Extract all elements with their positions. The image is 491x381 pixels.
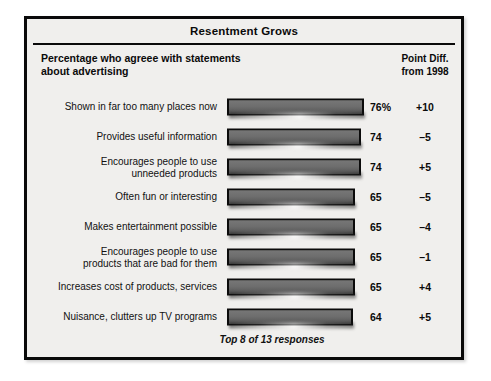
point-diff-line-1: Point Diff.	[389, 52, 461, 65]
row-label: Makes entertainment possible	[35, 221, 217, 233]
point-diff-value: –5	[389, 131, 461, 143]
subtitle-line-2: about advertising	[41, 65, 331, 78]
bar-track	[227, 309, 353, 326]
table-row: Encourages people to useunneeded product…	[27, 152, 461, 182]
point-diff-value: +4	[389, 281, 461, 293]
table-row: Shown in far too many places now76%+10	[27, 92, 461, 122]
bar-value-label: 64	[370, 311, 382, 323]
bar-value-label: 65	[370, 191, 382, 203]
bar	[227, 309, 353, 326]
point-diff-value: –5	[389, 191, 461, 203]
bar-track	[227, 159, 361, 176]
row-label-line-1: Provides useful information	[35, 131, 217, 143]
point-diff-column-header: Point Diff. from 1998	[389, 52, 461, 78]
footnote: Top 8 of 13 responses	[157, 334, 387, 345]
row-label-line-2: products that are bad for them	[35, 257, 217, 269]
subtitle-label: Percentage who agreee with statements ab…	[41, 52, 331, 78]
bar-value-label: 65	[370, 281, 382, 293]
bar	[227, 189, 355, 206]
point-diff-value: +5	[389, 161, 461, 173]
page-title: Resentment Grows	[190, 25, 298, 37]
bar	[227, 159, 361, 176]
bar-value-label: 74	[370, 131, 382, 143]
table-row: Increases cost of products, services65+4	[27, 272, 461, 302]
row-label: Encourages people to useproducts that ar…	[35, 246, 217, 269]
row-label-line-1: Increases cost of products, services	[35, 281, 217, 293]
row-label-line-1: Makes entertainment possible	[35, 221, 217, 233]
table-row: Encourages people to useproducts that ar…	[27, 242, 461, 272]
chart-title-bar: Resentment Grows	[27, 19, 461, 43]
row-label: Often fun or interesting	[35, 191, 217, 203]
row-label-line-1: Nuisance, clutters up TV programs	[35, 311, 217, 323]
bar-value-label: 65	[370, 221, 382, 233]
table-row: Often fun or interesting65–5	[27, 182, 461, 212]
bar-track	[227, 129, 361, 146]
row-label: Increases cost of products, services	[35, 281, 217, 293]
row-label: Nuisance, clutters up TV programs	[35, 311, 217, 323]
row-label-line-1: Shown in far too many places now	[35, 101, 217, 113]
column-headers: Percentage who agreee with statements ab…	[27, 52, 461, 90]
bar	[227, 279, 355, 296]
table-row: Makes entertainment possible65–4	[27, 212, 461, 242]
bar	[227, 99, 364, 116]
row-label-line-1: Encourages people to use	[35, 246, 217, 258]
bar-value-label: 65	[370, 251, 382, 263]
title-divider	[33, 43, 455, 45]
bar-track	[227, 279, 355, 296]
row-label: Encourages people to useunneeded product…	[35, 156, 217, 179]
point-diff-line-2: from 1998	[389, 65, 461, 78]
point-diff-value: +10	[389, 101, 461, 113]
bar	[227, 219, 355, 236]
row-label: Provides useful information	[35, 131, 217, 143]
table-row: Provides useful information74–5	[27, 122, 461, 152]
bar-value-label: 76%	[370, 101, 391, 113]
row-label: Shown in far too many places now	[35, 101, 217, 113]
point-diff-value: –1	[389, 251, 461, 263]
point-diff-value: +5	[389, 311, 461, 323]
point-diff-value: –4	[389, 221, 461, 233]
bar-track	[227, 99, 364, 116]
bar	[227, 129, 361, 146]
bar-rows: Shown in far too many places now76%+10Pr…	[27, 92, 461, 332]
bar-track	[227, 249, 355, 266]
subtitle-line-1: Percentage who agreee with statements	[41, 52, 331, 65]
table-row: Nuisance, clutters up TV programs64+5	[27, 302, 461, 332]
bar-track	[227, 219, 355, 236]
bar-value-label: 74	[370, 161, 382, 173]
chart-panel: Resentment Grows Percentage who agreee w…	[24, 16, 464, 360]
bar	[227, 249, 355, 266]
row-label-line-1: Often fun or interesting	[35, 191, 217, 203]
row-label-line-2: unneeded products	[35, 167, 217, 179]
bar-track	[227, 189, 355, 206]
row-label-line-1: Encourages people to use	[35, 156, 217, 168]
